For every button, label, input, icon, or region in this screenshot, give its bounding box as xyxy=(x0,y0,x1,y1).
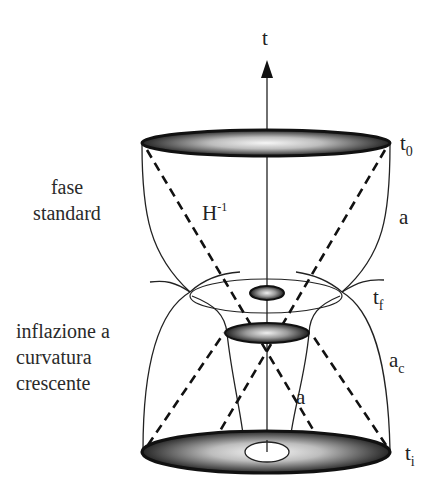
a-upper-label: a xyxy=(399,207,408,228)
inflation-phase-line-2: curvatura xyxy=(16,344,110,370)
standard-phase-surface xyxy=(142,145,390,292)
hubble-label: H-1 xyxy=(202,201,227,224)
standard-phase-label: fase standard xyxy=(22,174,112,226)
a-inner-label: a xyxy=(296,387,305,408)
ac-sub: c xyxy=(398,361,404,376)
ac-base: a xyxy=(389,348,398,372)
standard-phase-line-1: fase xyxy=(22,174,112,200)
ti-label: ti xyxy=(405,443,415,469)
tf-label: tf xyxy=(373,287,384,313)
t0-disk xyxy=(142,130,390,156)
axis-arrow-icon xyxy=(261,60,273,78)
ti-sub: i xyxy=(411,454,415,469)
inflation-phase-line-1: inflazione a xyxy=(16,318,110,344)
time-axis-label: t xyxy=(262,28,268,49)
tf-sub: f xyxy=(379,298,384,313)
hourglass-diagram xyxy=(0,0,439,494)
inflation-phase-line-3: crescente xyxy=(16,370,110,396)
inner-funnel-surface xyxy=(192,296,340,452)
t0-sub: 0 xyxy=(406,144,413,159)
inflation-disk xyxy=(225,323,309,343)
t0-label: t0 xyxy=(400,133,413,159)
standard-phase-line-2: standard xyxy=(22,200,112,226)
tf-inner-disk xyxy=(250,286,284,300)
hubble-sup: -1 xyxy=(217,200,227,214)
inflation-phase-label: inflazione a curvatura crescente xyxy=(16,318,110,396)
hubble-base: H xyxy=(202,201,217,225)
ac-label: ac xyxy=(389,350,405,376)
time-axis xyxy=(261,60,273,452)
